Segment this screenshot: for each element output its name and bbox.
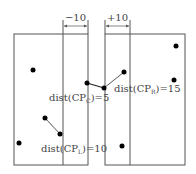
dimension-label: +10 [107, 12, 128, 23]
point [102, 86, 107, 91]
pair-line-left [45, 118, 60, 134]
label-dist-cp-l: dist(CPL)=10 [41, 143, 107, 155]
closest-pair-diagram: −10 +10 dist(CPC)=5 dist(CPR)=15 dist(CP… [0, 0, 196, 174]
point [85, 81, 90, 86]
dimension-minus-10: −10 [64, 12, 87, 28]
right-region [105, 34, 185, 165]
dimension-plus-10: +10 [106, 12, 129, 28]
point [120, 144, 125, 149]
point [31, 68, 36, 73]
dimension-label: −10 [65, 12, 86, 23]
pair-line-center [87, 83, 104, 88]
point [122, 70, 127, 75]
point [17, 141, 22, 146]
point [172, 78, 177, 83]
label-dist-cp-c: dist(CPC)=5 [49, 92, 109, 104]
label-dist-cp-r: dist(CPR)=15 [114, 83, 181, 95]
point [58, 132, 63, 137]
point [174, 44, 179, 49]
point [43, 116, 48, 121]
